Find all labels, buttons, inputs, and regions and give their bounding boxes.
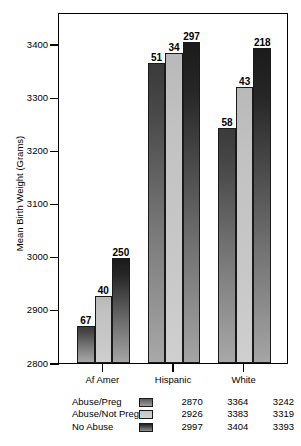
x-axis-tick — [243, 364, 244, 372]
y-axis-tick-label: 3100 — [8, 199, 48, 209]
legend-series-label: No Abuse — [72, 421, 139, 433]
bar — [77, 326, 95, 363]
legend-swatch-cell — [139, 421, 157, 433]
bar — [148, 63, 166, 363]
legend-value-cell: 2870 — [157, 396, 203, 408]
legend-swatch-cell — [139, 408, 157, 420]
bar — [218, 128, 236, 363]
x-axis-tick — [172, 364, 173, 372]
bar — [95, 296, 113, 363]
legend-series-label: Abuse/Not Preg — [72, 408, 139, 420]
bar — [112, 258, 130, 363]
legend-color-swatch — [139, 410, 153, 419]
legend-value-cell: 3364 — [203, 396, 249, 408]
legend-value-cell: 3393 — [248, 421, 294, 433]
y-axis-tick-label: 2800 — [8, 359, 48, 369]
legend-value-cell: 2926 — [157, 408, 203, 420]
bar-count-label: 297 — [172, 31, 212, 42]
legend-series-label: Abuse/Preg — [72, 396, 139, 408]
bar-chart: Mean Birth Weight (Grams) 28002900300031… — [0, 0, 301, 446]
bar — [236, 87, 254, 363]
legend-row: Abuse/Preg287033643242 — [72, 396, 294, 408]
plot-area: 674025051342975843218 — [58, 13, 288, 364]
bar — [253, 48, 271, 363]
x-axis-category-label: Hispanic — [133, 374, 213, 385]
bars-layer: 674025051342975843218 — [59, 14, 287, 363]
legend-value-cell: 3319 — [248, 408, 294, 420]
bar — [183, 42, 201, 363]
legend-value-cell: 3383 — [203, 408, 249, 420]
legend-color-swatch — [139, 398, 153, 407]
x-axis-category-label: White — [204, 374, 284, 385]
x-axis-category-label: Af Amer — [62, 374, 142, 385]
bar-count-label: 250 — [101, 247, 141, 258]
legend-table: Abuse/Preg287033643242Abuse/Not Preg2926… — [72, 396, 294, 433]
bar-count-label: 218 — [242, 37, 282, 48]
legend-value-cell: 3242 — [248, 396, 294, 408]
legend-value-cell: 3404 — [203, 421, 249, 433]
bar — [165, 53, 183, 363]
y-axis-tick-label: 3300 — [8, 93, 48, 103]
y-axis-tick-label: 3200 — [8, 146, 48, 156]
y-axis-tick-label: 2900 — [8, 305, 48, 315]
legend-value-cell: 2997 — [157, 421, 203, 433]
legend-color-swatch — [139, 423, 153, 432]
legend-swatch-cell — [139, 396, 157, 408]
legend-row: Abuse/Not Preg292633833319 — [72, 408, 294, 420]
x-axis-tick — [102, 364, 103, 372]
legend-rows: Abuse/Preg287033643242Abuse/Not Preg2926… — [72, 396, 294, 433]
legend-row: No Abuse299734043393 — [72, 421, 294, 433]
y-axis-tick-label: 3000 — [8, 252, 48, 262]
y-axis-tick-label: 3400 — [8, 40, 48, 50]
